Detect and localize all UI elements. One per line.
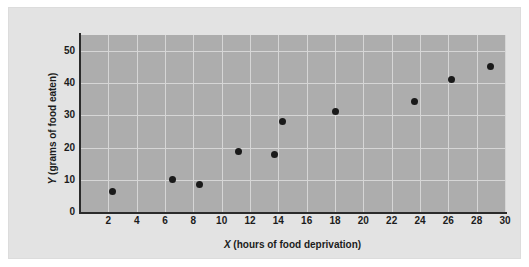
x-axis-tick-label: 6 <box>162 215 168 227</box>
x-axis-tick-label: 12 <box>244 215 255 227</box>
gridline-vertical <box>477 35 478 212</box>
y-axis-title: Y (grams of food eaten) <box>47 44 58 214</box>
x-axis-tick-label: 14 <box>273 215 284 227</box>
scatter-plot-figure: X (hours of food deprivation) Y (grams o… <box>0 0 529 267</box>
y-axis-tick-label: 10 <box>57 174 75 186</box>
gridline-horizontal <box>80 180 505 181</box>
data-point <box>487 63 494 70</box>
gridline-horizontal <box>80 148 505 149</box>
plot-area <box>80 35 505 212</box>
x-axis-tick-label: 4 <box>134 215 140 227</box>
y-axis-description: (grams of food eaten) <box>47 73 58 178</box>
gridline-vertical <box>250 35 251 212</box>
gridline-vertical <box>505 35 506 212</box>
x-axis-tick-label: 22 <box>386 215 397 227</box>
gridline-horizontal <box>80 51 505 52</box>
gridline-vertical <box>363 35 364 212</box>
y-axis-tick-label: 30 <box>57 109 75 121</box>
y-axis-tick-label: 40 <box>57 77 75 89</box>
data-point <box>109 188 116 195</box>
y-axis-tick-label: 50 <box>57 45 75 57</box>
x-axis-tick-label: 26 <box>443 215 454 227</box>
x-axis-tick-label: 2 <box>106 215 112 227</box>
gridline-vertical <box>165 35 166 212</box>
data-point <box>279 118 286 125</box>
gridline-vertical <box>392 35 393 212</box>
y-axis-tick-label: 0 <box>57 206 75 218</box>
x-axis-tick-label: 18 <box>329 215 340 227</box>
data-point <box>271 151 278 158</box>
gridline-horizontal <box>80 115 505 116</box>
data-point <box>196 181 203 188</box>
y-axis-tick-label: 20 <box>57 142 75 154</box>
gridline-vertical <box>307 35 308 212</box>
gridline-vertical <box>420 35 421 212</box>
data-point <box>235 148 242 155</box>
data-point <box>411 98 418 105</box>
y-axis-line <box>79 33 81 214</box>
gridline-horizontal <box>80 83 505 84</box>
gridline-vertical <box>193 35 194 212</box>
gridline-vertical <box>108 35 109 212</box>
gridline-vertical <box>222 35 223 212</box>
gridline-vertical <box>335 35 336 212</box>
x-axis-tick-label: 16 <box>301 215 312 227</box>
x-axis-description: (hours of food deprivation) <box>231 239 362 250</box>
data-point <box>448 76 455 83</box>
figure-panel: X (hours of food deprivation) Y (grams o… <box>8 7 521 259</box>
gridline-vertical <box>448 35 449 212</box>
x-axis-title: X (hours of food deprivation) <box>80 239 505 250</box>
x-axis-variable: X <box>224 239 231 250</box>
x-axis-tick-label: 20 <box>358 215 369 227</box>
gridline-vertical <box>137 35 138 212</box>
data-point <box>169 176 176 183</box>
x-axis-tick-label: 24 <box>414 215 425 227</box>
y-axis-variable: Y <box>47 178 58 185</box>
data-point <box>332 108 339 115</box>
x-axis-line <box>79 212 507 214</box>
x-axis-tick-label: 30 <box>499 215 510 227</box>
x-axis-tick-label: 28 <box>471 215 482 227</box>
x-axis-tick-label: 10 <box>216 215 227 227</box>
x-axis-tick-label: 8 <box>191 215 197 227</box>
